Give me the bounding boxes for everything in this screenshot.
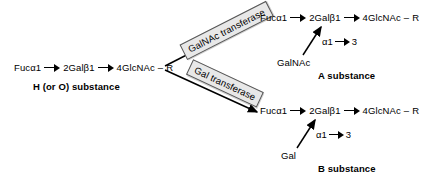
b-substance-label: B substance (318, 163, 376, 174)
linkage-arrow-icon (329, 130, 344, 139)
a-residue-1: Fucα1 (260, 12, 287, 23)
b-terminus: R (412, 105, 419, 116)
enzyme-label-galnac-transferase: GalNAc transferase (180, 1, 274, 60)
linkage-arrow-gal (297, 120, 315, 148)
a-substance-chain: Fucα1 2Galβ1 4GlcNAc – R (260, 12, 419, 23)
a-residue-2: 2Galβ1 (309, 12, 340, 23)
b-substance-chain: Fucα1 2Galβ1 4GlcNAc – R (260, 105, 419, 116)
chain-arrow-icon (290, 13, 306, 22)
diagram-canvas: Fucα1 2Galβ1 4GlcNAc – R H (or O) substa… (0, 0, 425, 187)
precursor-chain: Fucα1 2Galβ1 4GlcNAc – R (14, 62, 173, 73)
a-residue-3: 4GlcNAc (363, 12, 401, 23)
enzyme-label-gal-transferase: Gal transferase (186, 59, 264, 107)
a-linkage-position: 3 (352, 36, 357, 47)
precursor-residue-1: Fucα1 (14, 62, 41, 73)
precursor-dash: – (158, 62, 163, 73)
precursor-label: H (or O) substance (33, 81, 120, 92)
a-terminus: R (412, 12, 419, 23)
a-linkage-alpha: α1 (322, 36, 333, 47)
chain-arrow-icon (344, 106, 360, 115)
b-dash: – (404, 105, 409, 116)
b-residue-3: 4GlcNAc (363, 105, 401, 116)
a-linkage-annotation: α1 3 (322, 36, 357, 47)
linkage-arrow-galnac (303, 27, 321, 55)
precursor-terminus: R (166, 62, 173, 73)
linkage-arrow-icon (335, 37, 350, 46)
chain-arrow-icon (98, 63, 114, 72)
b-residue-1: Fucα1 (260, 105, 287, 116)
b-donor-label: Gal (281, 150, 296, 161)
chain-arrow-icon (44, 63, 60, 72)
precursor-residue-3: 4GlcNAc (117, 62, 155, 73)
chain-arrow-icon (344, 13, 360, 22)
b-residue-2: 2Galβ1 (309, 105, 340, 116)
chain-arrow-icon (290, 106, 306, 115)
a-substance-label: A substance (318, 70, 375, 81)
b-linkage-alpha: α1 (316, 129, 327, 140)
a-donor-label: GalNAc (277, 57, 310, 68)
precursor-residue-2: 2Galβ1 (63, 62, 94, 73)
a-dash: – (404, 12, 409, 23)
b-linkage-annotation: α1 3 (316, 129, 351, 140)
b-linkage-position: 3 (346, 129, 351, 140)
